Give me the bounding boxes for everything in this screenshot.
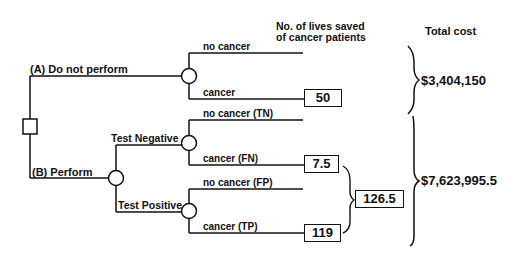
lives-saved-header-line2: of cancer patients: [276, 32, 366, 43]
branch-tp: cancer (TP): [203, 221, 257, 233]
lives-box-b-total: 126.5: [355, 190, 404, 208]
brace-lives-b: [343, 166, 354, 233]
chance-node-a: [182, 69, 197, 84]
option-b-label: (B) Perform: [32, 166, 93, 178]
lives-saved-header: No. of lives saved of cancer patients: [276, 21, 366, 43]
brace-cost-a: [408, 46, 419, 114]
branch-test-positive: Test Positive: [118, 199, 182, 211]
decision-node: [23, 119, 37, 134]
total-cost-header: Total cost: [425, 26, 476, 37]
chance-node-b: [109, 171, 124, 186]
branch-tn: no cancer (TN): [203, 108, 273, 120]
branch-a-cancer: cancer: [203, 87, 235, 99]
branch-test-negative: Test Negative: [111, 132, 179, 144]
lives-box-tp: 119: [304, 224, 341, 242]
branch-fn: cancer (FN): [203, 153, 258, 165]
chance-node-test-positive: [182, 204, 197, 219]
branch-a-no-cancer: no cancer: [203, 41, 250, 53]
brace-cost-b: [410, 116, 419, 246]
lives-box-fn: 7.5: [304, 155, 339, 173]
lives-box-a-cancer: 50: [304, 89, 342, 107]
branch-fp: no cancer (FP): [203, 177, 272, 189]
decision-tree-lines: [0, 0, 522, 260]
cost-option-b: $7,623,995.5: [421, 173, 497, 188]
chance-node-test-negative: [182, 136, 197, 151]
option-a-label: (A) Do not perform: [30, 63, 128, 75]
cost-option-a: $3,404,150: [421, 73, 486, 88]
